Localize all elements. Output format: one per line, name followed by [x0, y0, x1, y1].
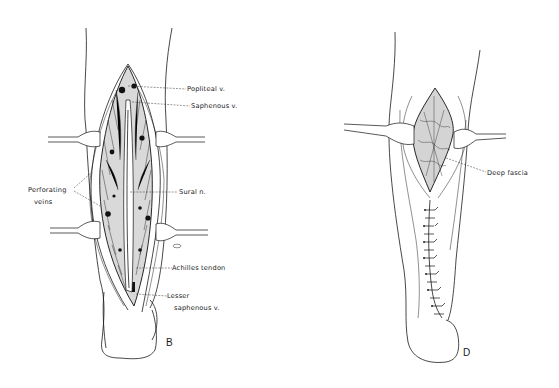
- fascia-window: [413, 88, 453, 192]
- label-perforating-veins-2: veins: [34, 198, 53, 206]
- label-lesser-saphenous-2: saphenous v.: [174, 304, 220, 312]
- heel-outline: [103, 292, 157, 348]
- signature-mark: [173, 244, 181, 248]
- panel-d: Deep fascia D: [344, 32, 528, 362]
- panel-letter-d: D: [463, 347, 470, 358]
- leader-perforating: [74, 172, 100, 206]
- retractor-left-d: [344, 123, 414, 145]
- label-popliteal-vein: Popliteal v.: [187, 85, 225, 93]
- leg-outline-right-d: [448, 50, 480, 320]
- label-achilles-tendon: Achilles tendon: [172, 264, 226, 272]
- suture-stitches: [424, 207, 445, 314]
- leg-outline-left-d: [389, 32, 459, 362]
- panel-letter-b: B: [166, 337, 173, 348]
- achilles-tendon: [124, 100, 134, 292]
- leader-lesser: [136, 294, 167, 296]
- retractor-lower-left: [50, 221, 100, 239]
- retractor-right-d: [454, 129, 506, 148]
- retractor-upper-left: [48, 131, 100, 147]
- retractor-upper-right: [156, 131, 205, 147]
- label-perforating-veins-1: Perforating: [28, 186, 67, 194]
- label-saphenous-vein: Saphenous v.: [191, 102, 237, 110]
- retractor-lower-right: [156, 223, 208, 241]
- label-lesser-saphenous-1: Lesser: [167, 292, 190, 300]
- leg-outline-right: [150, 28, 172, 308]
- medical-illustration-figure: Popliteal v. Saphenous v. Perforating ve…: [0, 0, 559, 388]
- label-sural-nerve: Sural n.: [179, 188, 206, 196]
- label-deep-fascia: Deep fascia: [487, 169, 528, 177]
- panel-b: Popliteal v. Saphenous v. Perforating ve…: [28, 28, 237, 359]
